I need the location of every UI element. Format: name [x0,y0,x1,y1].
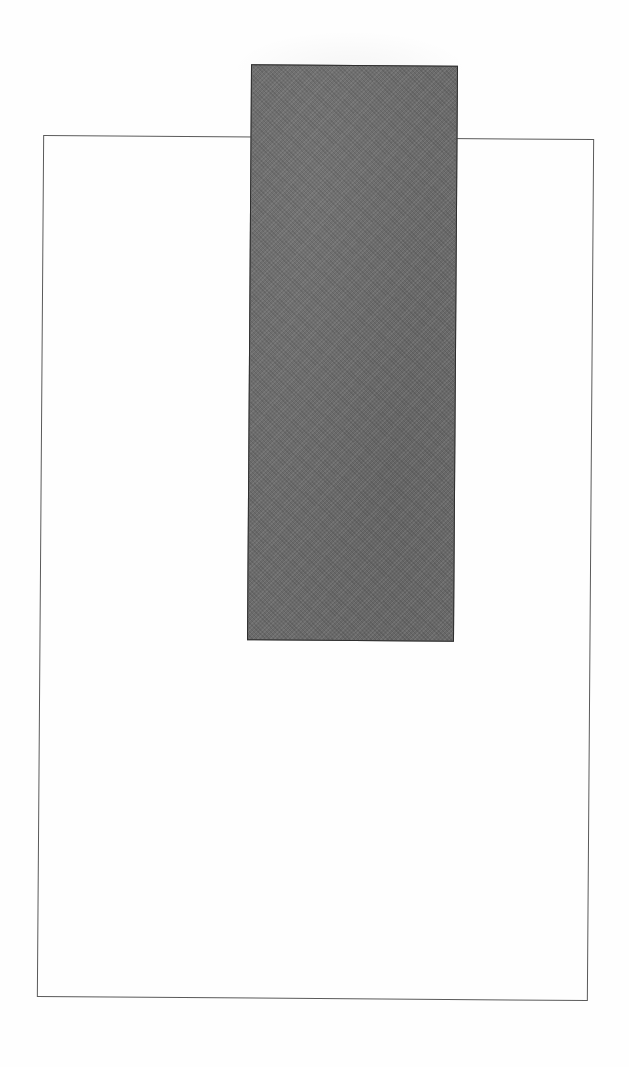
gray-filled-rectangle [247,64,458,641]
scanned-page [0,0,629,1067]
